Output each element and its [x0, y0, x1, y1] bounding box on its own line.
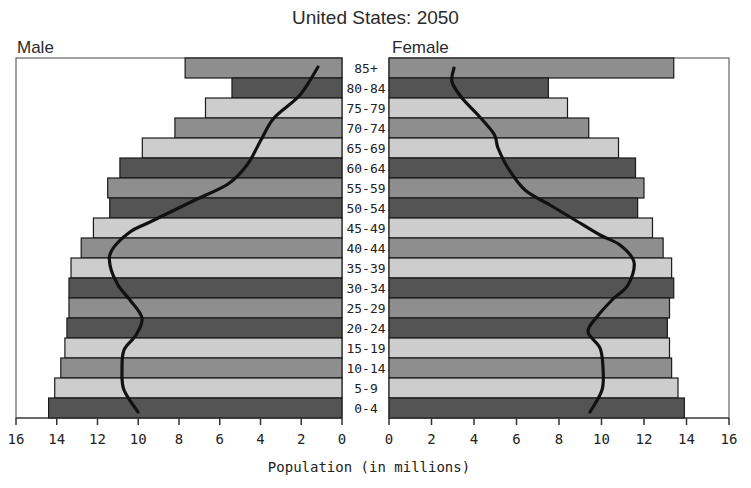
female-x-tick-label: 0: [385, 431, 393, 447]
female-bar: [389, 298, 670, 318]
age-group-label: 25-29: [346, 301, 385, 316]
male-x-tick-label: 12: [89, 431, 106, 447]
male-bar: [69, 278, 342, 298]
x-axis-label: Population (in millions): [268, 459, 470, 475]
male-x-tick-label: 2: [297, 431, 305, 447]
female-bar: [389, 398, 684, 418]
age-group-label: 40-44: [346, 241, 385, 256]
population-pyramid-chart: 85+80-8475-7970-7465-6960-6455-5950-5445…: [0, 0, 751, 488]
age-group-label: 30-34: [346, 281, 385, 296]
male-bar: [49, 398, 342, 418]
age-group-label: 55-59: [346, 181, 385, 196]
age-group-label: 10-14: [346, 361, 385, 376]
male-bar: [67, 318, 342, 338]
age-group-label: 15-19: [346, 341, 385, 356]
male-x-tick-label: 16: [8, 431, 25, 447]
age-group-label: 50-54: [346, 201, 385, 216]
male-x-tick-label: 6: [216, 431, 224, 447]
age-group-label: 45-49: [346, 221, 385, 236]
male-bar: [61, 358, 342, 378]
age-group-labels: 85+80-8475-7970-7465-6960-6455-5950-5445…: [346, 61, 385, 416]
female-bar: [389, 318, 667, 338]
female-x-tick-label: 16: [721, 431, 738, 447]
female-x-tick-label: 14: [678, 431, 695, 447]
age-group-label: 0-4: [354, 401, 378, 416]
female-x-tick-label: 8: [555, 431, 563, 447]
male-bar: [120, 158, 342, 178]
female-x-tick-label: 10: [593, 431, 610, 447]
female-bar: [389, 378, 678, 398]
female-bar: [389, 78, 548, 98]
male-bar: [69, 298, 342, 318]
male-bar: [93, 218, 342, 238]
female-x-tick-label: 12: [636, 431, 653, 447]
female-x-tick-label: 2: [427, 431, 435, 447]
age-group-label: 80-84: [346, 81, 385, 96]
male-x-tick-label: 0: [338, 431, 346, 447]
male-bar: [55, 378, 342, 398]
male-bar: [108, 178, 342, 198]
male-bar: [205, 98, 342, 118]
female-bar: [389, 198, 638, 218]
male-x-tick-label: 4: [256, 431, 264, 447]
male-bar: [232, 78, 342, 98]
age-group-label: 70-74: [346, 121, 385, 136]
age-group-label: 20-24: [346, 321, 385, 336]
age-group-label: 35-39: [346, 261, 385, 276]
age-group-label: 5-9: [354, 381, 377, 396]
female-bar: [389, 58, 674, 78]
male-bar: [175, 118, 342, 138]
age-group-label: 60-64: [346, 161, 385, 176]
male-x-tick-label: 14: [48, 431, 65, 447]
female-bar: [389, 138, 619, 158]
male-x-tick-label: 8: [175, 431, 183, 447]
male-bar: [142, 138, 342, 158]
male-bar: [110, 198, 342, 218]
female-bar: [389, 218, 653, 238]
age-group-label: 85+: [354, 61, 378, 76]
age-group-label: 65-69: [346, 141, 385, 156]
male-x-tick-label: 10: [130, 431, 147, 447]
age-group-label: 75-79: [346, 101, 385, 116]
female-bar: [389, 258, 672, 278]
female-bar: [389, 338, 670, 358]
x-axes: 16141210864200246810121416: [8, 418, 738, 447]
female-x-tick-label: 4: [470, 431, 478, 447]
male-bar: [65, 338, 342, 358]
female-bar: [389, 358, 672, 378]
female-x-tick-label: 6: [512, 431, 520, 447]
